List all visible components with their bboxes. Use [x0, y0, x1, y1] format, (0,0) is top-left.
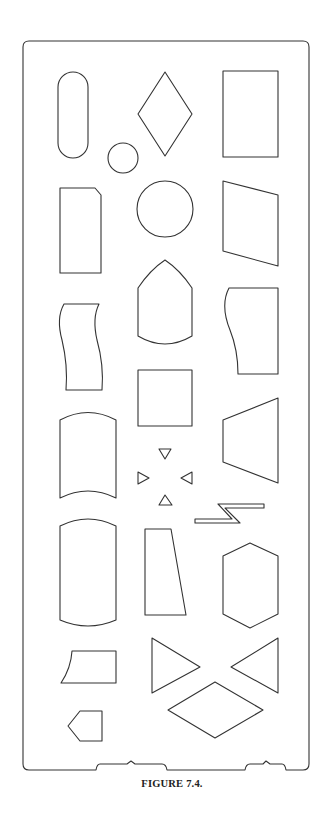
punched-card-shape — [60, 188, 101, 273]
small-connector-circle-shape — [108, 143, 138, 173]
process-rectangle-shape — [223, 71, 278, 157]
magnetic-tape-barrel-shape — [60, 519, 116, 626]
triangle-up-icon — [159, 495, 172, 505]
flow-arrows-icon — [138, 449, 192, 505]
document-wavy-left-shape — [225, 288, 278, 374]
stencil-figure — [0, 0, 332, 823]
manual-operation-trapezoid-shape — [223, 398, 278, 483]
extract-triangle-left-shape — [231, 638, 278, 693]
decision-diamond-shape — [138, 72, 192, 156]
triangle-down-icon — [159, 449, 171, 459]
preparation-hexagon-shape — [223, 543, 278, 628]
off-page-connector-bullet-shape — [138, 260, 192, 344]
sort-wide-diamond-shape — [168, 682, 263, 738]
punched-tape-shape — [59, 304, 102, 390]
off-page-pentagon-shape — [68, 711, 102, 741]
curved-left-card-shape — [61, 651, 116, 683]
magnetic-drum-barrel-shape — [60, 413, 116, 499]
merge-triangle-right-shape — [152, 638, 200, 693]
manual-input-parallelogram-shape — [223, 181, 278, 266]
connector-circle-shape — [137, 181, 193, 237]
figure-caption: FIGURE 7.4. — [0, 778, 332, 789]
triangle-left-icon — [181, 472, 192, 484]
communication-link-bolt-shape — [195, 504, 264, 523]
terminal-stadium-shape — [58, 72, 88, 158]
tapered-trapezoid-shape — [145, 529, 186, 615]
triangle-right-icon — [138, 472, 149, 484]
auxiliary-square-shape — [138, 370, 192, 426]
stencil-frame — [23, 41, 309, 770]
